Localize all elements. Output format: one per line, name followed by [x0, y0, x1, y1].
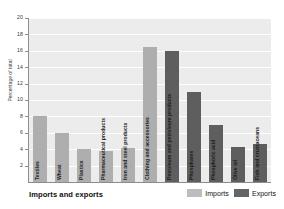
x-category-label: Fish and crustaceans — [254, 127, 260, 180]
y-tick-label: 2 — [20, 163, 23, 168]
y-tick-label: 16 — [17, 48, 23, 53]
chart-footer: Imports and exports Imports Exports — [0, 186, 284, 209]
bar-group[interactable]: Pharmaceutical products — [95, 18, 117, 182]
y-tick-mark — [25, 133, 29, 134]
y-tick-mark — [25, 149, 29, 150]
x-category-label: Wheat — [56, 164, 62, 180]
bar-group[interactable]: Wheat — [51, 18, 73, 182]
x-category-label: Iron and steel products — [122, 123, 128, 180]
x-category-label: Pharmaceutical products — [100, 118, 106, 180]
y-tick-label: 14 — [17, 65, 23, 70]
y-tick-label: 4 — [20, 147, 23, 152]
y-tick-label: 8 — [20, 114, 23, 119]
bar-group[interactable]: Phosphates — [183, 18, 205, 182]
bar-group[interactable]: Clothing and accessories — [139, 18, 161, 182]
bar-series-container: TextilesWheatPlasticsPharmaceutical prod… — [29, 18, 271, 182]
bar-group[interactable]: Olive oil — [227, 18, 249, 182]
x-category-label: Olive oil — [232, 160, 238, 180]
bar-group[interactable]: Phosphoric acid — [205, 18, 227, 182]
x-category-label: Clothing and accessories — [144, 117, 150, 180]
y-tick-mark — [25, 51, 29, 52]
x-category-label: Phosphates — [188, 151, 194, 180]
y-axis-title: Percentage of total — [8, 46, 13, 116]
bar-group[interactable]: Petroleum and petroleum products — [161, 18, 183, 182]
y-tick-label: 18 — [17, 32, 23, 37]
x-category-label: Textiles — [34, 161, 40, 180]
y-tick-label: 6 — [20, 130, 23, 135]
y-tick-mark — [25, 34, 29, 35]
legend-item-imports: Imports — [187, 189, 229, 197]
y-tick-label: 10 — [17, 97, 23, 102]
bar-group[interactable]: Iron and steel products — [117, 18, 139, 182]
bar-group[interactable]: Fish and crustaceans — [249, 18, 271, 182]
y-tick-mark — [25, 67, 29, 68]
bar-group[interactable]: Textiles — [29, 18, 51, 182]
y-tick-label: 20 — [17, 15, 23, 20]
bar-group[interactable]: Plastics — [73, 18, 95, 182]
legend-label-exports: Exports — [252, 190, 276, 197]
x-category-label: Petroleum and petroleum products — [166, 94, 172, 180]
y-tick-mark — [25, 116, 29, 117]
chart-title: Imports and exports — [29, 190, 103, 199]
y-tick-label: 12 — [17, 81, 23, 86]
y-tick-mark — [25, 166, 29, 167]
x-category-label: Plastics — [78, 160, 84, 180]
chart-screenshot: 2018161412108642 Percentage of total Tex… — [0, 0, 284, 209]
legend-item-exports: Exports — [234, 189, 276, 197]
x-category-label: Phosphoric acid — [210, 140, 216, 180]
y-tick-mark — [25, 100, 29, 101]
legend-swatch-imports-icon — [187, 189, 202, 197]
x-axis-line — [28, 182, 271, 183]
chart-legend: Imports Exports — [187, 189, 276, 197]
legend-swatch-exports-icon — [234, 189, 249, 197]
y-tick-mark — [25, 84, 29, 85]
y-tick-mark — [25, 18, 29, 19]
legend-label-imports: Imports — [205, 190, 229, 197]
